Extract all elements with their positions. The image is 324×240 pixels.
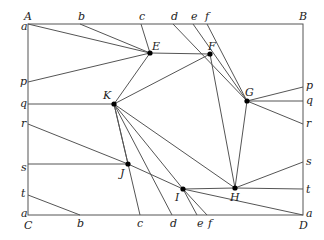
- boundary-label-a: a: [306, 207, 313, 220]
- segment: [235, 101, 247, 188]
- boundary-label-d: d: [171, 10, 178, 23]
- boundary-label-t: t: [21, 187, 26, 200]
- boundary-label-c: c: [139, 10, 145, 23]
- point-label-g: G: [245, 86, 254, 99]
- boundary-label-a: a: [21, 207, 28, 220]
- point-label-h: H: [229, 191, 240, 204]
- segment: [141, 24, 150, 53]
- boundary-label-q: q: [306, 94, 313, 107]
- segment: [210, 54, 235, 188]
- point-j: [125, 161, 130, 166]
- outer-rectangle: [28, 24, 303, 215]
- boundary-label-c: c: [137, 217, 143, 230]
- boundary-label-r: r: [306, 117, 312, 130]
- boundary-label-q: q: [20, 97, 27, 110]
- segment: [28, 53, 150, 82]
- corner-label-c: C: [24, 219, 33, 232]
- segment: [207, 24, 247, 101]
- segment: [235, 188, 303, 189]
- boundary-label-r: r: [21, 117, 27, 130]
- boundary-label-b: b: [77, 217, 84, 230]
- boundary-label-a: a: [21, 20, 28, 33]
- boundary-label-e: e: [197, 217, 204, 230]
- point-label-k: K: [102, 89, 112, 102]
- labels-layer: EFGHIJKABCDabcdefpqrstabcdefpqrsta: [20, 10, 313, 232]
- segment: [183, 188, 235, 189]
- point-label-i: I: [174, 191, 180, 204]
- point-k: [111, 101, 116, 106]
- segment: [183, 189, 303, 215]
- geometry-diagram: EFGHIJKABCDabcdefpqrstabcdefpqrsta: [0, 0, 324, 240]
- segment: [128, 164, 183, 189]
- segments-layer: [28, 24, 303, 215]
- point-label-j: J: [118, 167, 125, 180]
- boundary-label-p: p: [306, 79, 313, 92]
- boundary-label-s: s: [21, 161, 27, 174]
- point-i: [180, 186, 185, 191]
- boundary-label-p: p: [20, 75, 27, 88]
- points-layer: [111, 50, 249, 191]
- boundary-label-b: b: [78, 10, 85, 23]
- boundary-label-t: t: [306, 183, 311, 196]
- segment: [28, 24, 150, 53]
- segment: [173, 24, 247, 101]
- segment: [28, 124, 128, 164]
- segment: [114, 54, 210, 104]
- segment: [114, 104, 235, 188]
- point-label-f: F: [207, 40, 216, 53]
- segment: [247, 101, 303, 124]
- boundary-label-f: f: [207, 217, 214, 230]
- segment: [28, 195, 80, 215]
- segment: [114, 104, 172, 215]
- corner-label-d: D: [298, 219, 308, 232]
- boundary-label-d: d: [170, 217, 177, 230]
- segment: [247, 87, 303, 101]
- segment: [193, 24, 247, 101]
- point-h: [232, 185, 237, 190]
- boundary-label-e: e: [191, 10, 198, 23]
- boundary-label-f: f: [204, 10, 211, 23]
- point-label-e: E: [151, 40, 160, 53]
- corner-label-b: B: [298, 10, 307, 23]
- point-g: [244, 98, 249, 103]
- boundary-label-s: s: [306, 155, 312, 168]
- segment: [235, 162, 303, 188]
